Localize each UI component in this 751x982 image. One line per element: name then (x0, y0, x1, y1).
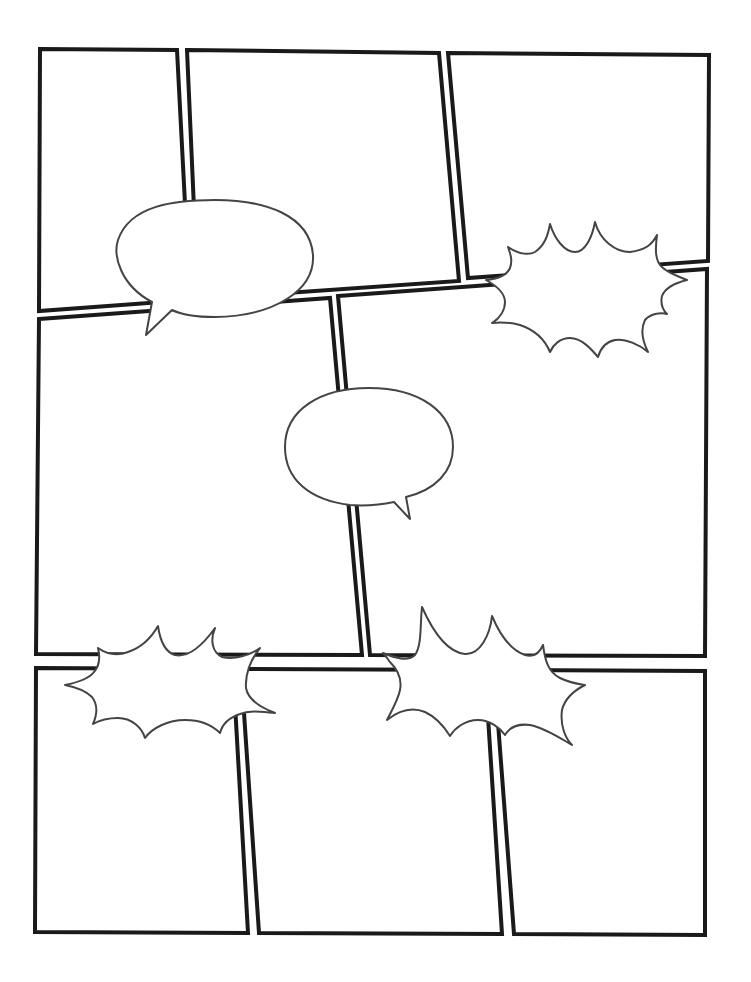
comic-page: Blank comic page template (0, 0, 751, 982)
comic-canvas (0, 0, 751, 982)
panel-3[interactable] (448, 53, 709, 278)
